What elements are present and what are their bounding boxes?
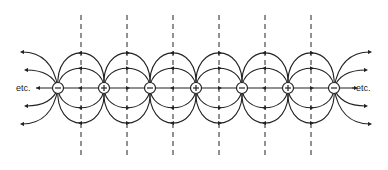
etc-label-right: etc. — [356, 83, 371, 93]
positive-charge — [283, 83, 294, 94]
negative-charge — [237, 83, 248, 94]
positive-charge — [99, 83, 110, 94]
field-line-diagram — [0, 0, 388, 170]
negative-charge — [145, 83, 156, 94]
negative-charge — [329, 83, 340, 94]
positive-charge — [191, 83, 202, 94]
negative-charge — [53, 83, 64, 94]
etc-label-left: etc. — [16, 83, 31, 93]
